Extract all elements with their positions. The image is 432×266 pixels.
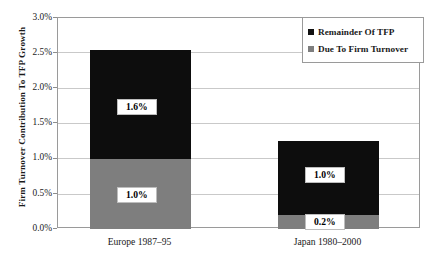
legend-item-due-to-firm-turnover: Due To Firm Turnover — [308, 40, 419, 57]
legend-swatch-due-to-firm-turnover-icon — [308, 46, 314, 52]
y-tick-label-0-0: 0.0% — [8, 223, 52, 233]
y-tick-label-1-5: 1.5% — [8, 117, 52, 127]
y-tick-label-0-5: 0.5% — [8, 188, 52, 198]
x-axis-category-label-europe: Europe 1987–95 — [89, 236, 190, 247]
y-tick-mark-0-0 — [53, 228, 57, 229]
legend-label-remainder-of-tfp: Remainder Of TFP — [318, 27, 395, 37]
data-label-japan-remainder-of-tfp: 1.0% — [305, 167, 345, 183]
y-tick-label-3-0: 3.0% — [8, 12, 52, 22]
data-label-europe-remainder-of-tfp: 1.6% — [117, 99, 157, 115]
data-label-japan-due-to-firm-turnover: 0.2% — [305, 214, 345, 230]
legend-label-due-to-firm-turnover: Due To Firm Turnover — [318, 44, 408, 54]
y-tick-label-2-0: 2.0% — [8, 82, 52, 92]
chart-container: Firm Turnover Contribution To TFP Growth… — [0, 0, 432, 266]
y-tick-label-1-0: 1.0% — [8, 152, 52, 162]
legend-swatch-remainder-of-tfp-icon — [308, 29, 314, 35]
x-axis-category-label-japan: Japan 1980–2000 — [277, 236, 378, 247]
legend-item-remainder-of-tfp: Remainder Of TFP — [308, 23, 419, 40]
data-label-europe-due-to-firm-turnover: 1.0% — [117, 187, 157, 203]
y-tick-label-2-5: 2.5% — [8, 47, 52, 57]
legend: Remainder Of TFP Due To Firm Turnover — [302, 17, 424, 63]
